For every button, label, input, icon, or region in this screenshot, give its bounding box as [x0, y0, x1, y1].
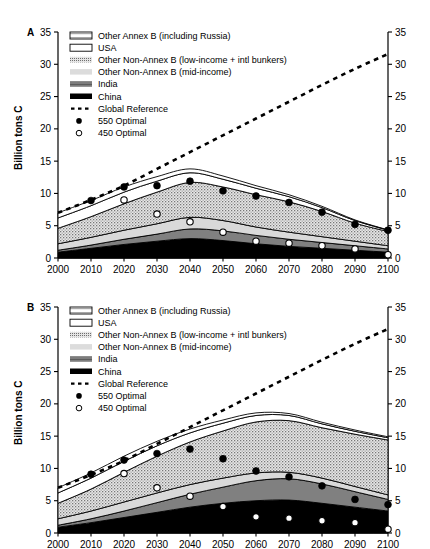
marker-450-optimal	[187, 493, 193, 499]
panel-letter: B	[27, 302, 34, 313]
y-tick-label-left: 35	[40, 27, 52, 38]
x-tick-label: 2020	[113, 264, 136, 274]
marker-450-optimal	[121, 470, 127, 476]
marker-550-optimal	[286, 199, 293, 206]
legend-item: 550 Optimal	[76, 391, 146, 401]
marker-550-optimal	[319, 482, 326, 489]
x-tick-label: 2100	[377, 539, 400, 549]
legend-label: USA	[98, 318, 117, 328]
legend-item: Other Non-Annex B (mid-income)	[70, 342, 232, 352]
marker-550-optimal	[253, 193, 260, 200]
panel-a: ABillion tons C0055101015152020252530303…	[0, 0, 430, 274]
x-tick-label: 2000	[47, 539, 70, 549]
y-tick-label-right: 5	[395, 220, 401, 231]
marker-550-optimal	[319, 209, 326, 216]
lowincome-swatch	[70, 57, 92, 63]
legend-label: 450 Optimal	[98, 128, 147, 138]
china-swatch	[70, 369, 92, 375]
chart-b: BBillion tons C0055101015152020252530303…	[0, 275, 430, 549]
y-tick-label-right: 15	[395, 156, 407, 167]
y-tick-label-left: 10	[40, 463, 52, 474]
lowincome-swatch	[70, 332, 92, 338]
marker-550-optimal	[121, 457, 128, 464]
y-tick-label-right: 35	[395, 302, 407, 313]
y-tick-label-left: 20	[40, 398, 52, 409]
x-tick-label: 2050	[212, 264, 235, 274]
y-tick-label-left: 30	[40, 59, 52, 70]
legend-label: Other Non-Annex B (low-income + intl bun…	[98, 330, 287, 340]
marker-550-optimal	[154, 182, 161, 189]
midincome-swatch	[70, 69, 92, 75]
y-tick-label-right: 15	[395, 431, 407, 442]
y-tick-label-right: 20	[395, 398, 407, 409]
marker-450-optimal	[220, 229, 226, 235]
marker-550-optimal	[187, 178, 194, 185]
marker-550-optimal	[253, 468, 260, 475]
marker-450-optimal	[121, 197, 127, 203]
y-tick-label-left: 10	[40, 188, 52, 199]
legend-label: Other Annex B (including Russia)	[98, 31, 231, 41]
marker-450-optimal	[352, 519, 358, 525]
y-tick-label-right: 25	[395, 91, 407, 102]
y-tick-label-right: 0	[395, 528, 401, 539]
marker-450-optimal	[319, 243, 325, 249]
x-tick-label: 2060	[245, 539, 268, 549]
x-tick-label: 2090	[344, 264, 367, 274]
marker-550-optimal	[220, 187, 227, 194]
legend-label: China	[98, 92, 122, 102]
marker-450-optimal	[352, 246, 358, 252]
x-tick-label: 2010	[80, 539, 103, 549]
marker-550-optimal	[88, 197, 95, 204]
usa-swatch	[70, 319, 92, 326]
legend-item: Other Non-Annex B (low-income + intl bun…	[70, 330, 287, 340]
marker-550-optimal	[385, 501, 392, 508]
legend-label: India	[98, 354, 118, 364]
x-tick-label: 2080	[311, 264, 334, 274]
y-axis-label: Billion tons C	[13, 381, 24, 445]
legend-label: USA	[98, 43, 117, 53]
x-tick-label: 2030	[146, 539, 169, 549]
y-tick-label-left: 5	[45, 220, 51, 231]
filled-circle-swatch	[76, 393, 82, 399]
legend-item: USA	[70, 318, 117, 328]
y-tick-label-right: 5	[395, 495, 401, 506]
y-tick-label-right: 30	[395, 59, 407, 70]
y-tick-label-left: 0	[45, 253, 51, 264]
chart-a: ABillion tons C0055101015152020252530303…	[0, 0, 430, 274]
india-swatch	[70, 356, 92, 362]
marker-550-optimal	[187, 446, 194, 453]
filled-circle-swatch	[76, 118, 82, 124]
y-tick-label-left: 25	[40, 91, 52, 102]
y-tick-label-left: 30	[40, 334, 52, 345]
y-tick-label-left: 20	[40, 123, 52, 134]
legend-label: China	[98, 367, 122, 377]
y-tick-label-right: 35	[395, 27, 407, 38]
marker-550-optimal	[385, 227, 392, 234]
marker-450-optimal	[385, 252, 391, 258]
y-axis-label: Billion tons C	[13, 106, 24, 170]
y-tick-label-left: 15	[40, 431, 52, 442]
china-swatch	[70, 94, 92, 100]
open-circle-swatch	[76, 130, 82, 136]
x-tick-label: 2010	[80, 264, 103, 274]
marker-450-optimal	[154, 485, 160, 491]
y-tick-label-right: 30	[395, 334, 407, 345]
legend-item: Global Reference	[71, 104, 168, 114]
marker-550-optimal	[121, 184, 128, 191]
midincome-swatch	[70, 344, 92, 350]
y-tick-label-left: 35	[40, 302, 52, 313]
legend-label: India	[98, 79, 118, 89]
legend-item: 450 Optimal	[76, 403, 146, 413]
x-tick-label: 2070	[278, 539, 301, 549]
y-tick-label-left: 15	[40, 156, 52, 167]
x-tick-label: 2060	[245, 264, 268, 274]
legend-label: Global Reference	[98, 104, 168, 114]
legend-label: Other Non-Annex B (mid-income)	[98, 67, 232, 77]
marker-450-optimal	[154, 211, 160, 217]
y-tick-label-right: 20	[395, 123, 407, 134]
annexb-swatch	[70, 307, 92, 314]
x-tick-label: 2030	[146, 264, 169, 274]
legend-item: India	[70, 354, 118, 364]
marker-450-optimal	[187, 219, 193, 225]
y-tick-label-right: 25	[395, 366, 407, 377]
